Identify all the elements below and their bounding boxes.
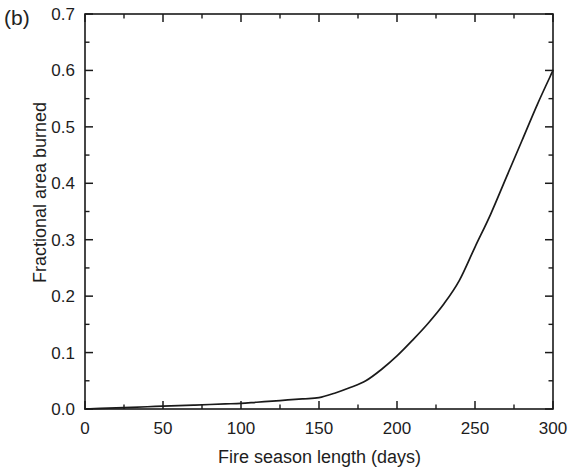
x-axis-tick-label: 250 (461, 419, 489, 438)
x-axis-label: Fire season length (days) (85, 447, 554, 468)
x-axis-tick-label: 50 (154, 419, 173, 438)
x-axis-tick-label: 300 (539, 419, 567, 438)
panel-label: (b) (4, 6, 30, 30)
y-axis-tick-label: 0.1 (51, 344, 75, 363)
y-axis-tick-label: 0.6 (51, 61, 75, 80)
x-axis-tick-label: 150 (305, 419, 333, 438)
line-chart-plot: 0501001502002503000.00.10.20.30.40.50.60… (0, 0, 570, 474)
y-axis-tick-label: 0.3 (51, 231, 75, 250)
x-axis-tick-label: 100 (227, 419, 255, 438)
y-axis-tick-label: 0.2 (51, 287, 75, 306)
y-axis-tick-label: 0.0 (51, 400, 75, 419)
y-axis-tick-label: 0.7 (51, 5, 75, 24)
figure-container: (b) 0501001502002503000.00.10.20.30.40.5… (0, 0, 570, 474)
y-axis-tick-label: 0.4 (51, 174, 75, 193)
plot-frame (85, 14, 553, 409)
y-axis-label: Fractional area burned (30, 43, 51, 343)
data-series-line (85, 70, 553, 409)
x-axis-tick-label: 0 (80, 419, 89, 438)
y-axis-tick-label: 0.5 (51, 118, 75, 137)
x-axis-tick-label: 200 (383, 419, 411, 438)
